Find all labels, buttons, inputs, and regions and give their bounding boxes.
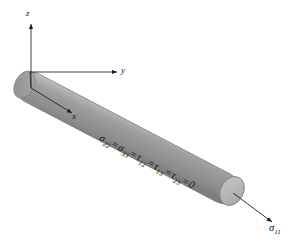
sigma11-subscript: 11 [274, 228, 280, 236]
x-axis-label: x [72, 112, 76, 121]
circular-rod [11, 67, 245, 209]
y-axis-label: y [121, 66, 125, 75]
figure-canvas [0, 0, 301, 246]
sigma11-arrow [233, 193, 272, 222]
stress-cylinder-figure: z y x σ22=σ33=τ12=τ13=τ23=0 σ11 [0, 0, 301, 246]
applied-stress-label: σ11 [269, 222, 281, 236]
z-axis-label: z [26, 9, 30, 18]
rod-body [11, 67, 245, 209]
applied-stress-arrow-line [233, 193, 272, 222]
